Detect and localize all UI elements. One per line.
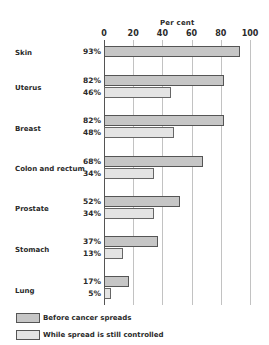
x-tick-label: 100 — [242, 29, 259, 38]
x-tick-label: 20 — [128, 29, 139, 38]
bar-before — [104, 236, 158, 247]
value-label: 37% — [71, 237, 101, 246]
legend-label-while: While spread is still controlled — [43, 331, 164, 339]
value-label: 52% — [71, 197, 101, 206]
bar-before — [104, 276, 129, 287]
x-tick-label: 40 — [157, 29, 168, 38]
value-label: 13% — [71, 249, 101, 258]
value-label: 34% — [71, 169, 101, 178]
value-label: 68% — [71, 157, 101, 166]
category-label: Breast — [15, 125, 41, 133]
x-tick-label: 80 — [215, 29, 226, 38]
value-label: 5% — [71, 289, 101, 298]
x-tick-label: 60 — [186, 29, 197, 38]
value-label: 48% — [71, 128, 101, 137]
bar-before — [104, 196, 180, 207]
category-label: Prostate — [15, 205, 49, 213]
gridline — [250, 40, 251, 305]
value-label: 17% — [71, 277, 101, 286]
bar-while — [104, 87, 171, 98]
bar-while — [104, 288, 111, 299]
category-label: Stomach — [15, 246, 49, 254]
category-label: Lung — [15, 287, 34, 295]
legend-swatch-before — [16, 313, 40, 323]
legend-label-before: Before cancer spreads — [43, 314, 132, 322]
bar-while — [104, 208, 154, 219]
legend-swatch-while — [16, 330, 40, 340]
category-label: Uterus — [15, 84, 41, 92]
value-label: 82% — [71, 76, 101, 85]
x-axis-title: Per cent — [160, 19, 195, 27]
value-label: 46% — [71, 88, 101, 97]
value-label: 34% — [71, 209, 101, 218]
x-tick-label: 0 — [101, 29, 107, 38]
bar-before — [104, 156, 203, 167]
bar-before — [104, 115, 224, 126]
bar-while — [104, 168, 154, 179]
value-label: 82% — [71, 116, 101, 125]
value-label: 93% — [71, 47, 101, 56]
bar-while — [104, 248, 123, 259]
bar-while — [104, 127, 174, 138]
bar-before — [104, 46, 240, 57]
category-label: Skin — [15, 49, 32, 57]
bar-before — [104, 75, 224, 86]
